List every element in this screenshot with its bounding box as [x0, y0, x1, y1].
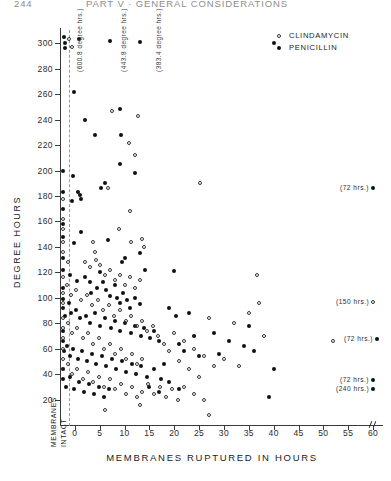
data-point: [207, 413, 211, 417]
data-point: [115, 296, 119, 300]
data-point: [128, 275, 132, 279]
y-tick: [55, 171, 60, 172]
y-tick: [55, 94, 60, 95]
data-point: [118, 301, 122, 305]
data-point: [118, 329, 122, 333]
filled-circle-icon: [371, 387, 375, 391]
open-circle-icon: [371, 300, 375, 304]
data-point: [104, 288, 108, 292]
data-point: [108, 342, 112, 346]
data-point: [103, 181, 107, 185]
data-point: [86, 370, 90, 374]
data-point: [182, 349, 186, 353]
data-point: [172, 331, 176, 335]
data-point: [124, 319, 128, 323]
data-point: [138, 251, 142, 255]
data-point: [156, 334, 160, 338]
data-point: [197, 375, 201, 379]
data-point: [237, 364, 241, 368]
data-point: [124, 357, 128, 361]
data-point: [61, 250, 65, 254]
data-point: [128, 209, 132, 213]
y-tick-label: 240: [22, 115, 53, 125]
data-point: [108, 294, 112, 298]
data-point: [134, 372, 138, 376]
data-point: [129, 331, 133, 335]
data-point: [130, 352, 134, 356]
data-point: [138, 302, 142, 306]
degree-hours-callout: (383.4 degree hrs.): [155, 8, 162, 72]
data-point: [182, 339, 186, 343]
data-point: [192, 347, 196, 351]
data-point: [158, 385, 162, 389]
x-tick-label: 15: [137, 428, 161, 438]
data-point: [69, 293, 73, 297]
data-point: [61, 268, 65, 272]
data-point: [187, 367, 191, 371]
filled-circle-icon: [375, 337, 379, 341]
data-point: [164, 395, 168, 399]
data-point: [74, 288, 78, 292]
filled-circle-icon: [371, 378, 375, 382]
data-point: [227, 339, 231, 343]
legend-label: CLINDAMYCIN: [289, 31, 349, 40]
data-point: [247, 311, 251, 315]
data-point: [102, 385, 106, 389]
data-point: [100, 354, 104, 358]
data-point: [93, 250, 97, 254]
y-tick-label-text: 300: [27, 38, 53, 48]
y-tick-label: 40: [22, 369, 53, 379]
filled-circle-icon: [371, 186, 375, 190]
data-point: [108, 268, 112, 272]
data-point: [113, 352, 117, 356]
data-point: [102, 395, 106, 399]
data-point: [103, 408, 107, 412]
off-scale-callout-label: (72 hrs.): [344, 335, 373, 342]
data-point: [152, 367, 156, 371]
off-scale-callout: (72 hrs.): [340, 184, 375, 191]
data-point: [72, 90, 76, 94]
data-point: [98, 263, 102, 267]
data-point: [262, 334, 266, 338]
data-point: [212, 364, 216, 368]
data-point: [118, 273, 122, 277]
data-point: [85, 359, 89, 363]
data-point: [145, 329, 149, 333]
data-point: [110, 357, 114, 361]
data-point: [101, 280, 105, 284]
data-point: [120, 359, 124, 363]
data-point: [61, 306, 65, 310]
data-point: [113, 387, 117, 391]
data-point: [71, 174, 75, 178]
data-point: [157, 390, 161, 394]
data-point: [133, 153, 137, 157]
data-point: [62, 35, 66, 39]
data-point: [217, 352, 221, 356]
data-point: [118, 107, 122, 111]
data-point: [96, 298, 100, 302]
data-point: [61, 190, 65, 194]
data-point: [222, 357, 226, 361]
data-point: [138, 40, 142, 44]
y-tick-label-text: 260: [27, 89, 53, 99]
x-tick-label: 20: [162, 428, 186, 438]
y-tick-label-text: 120: [27, 267, 53, 277]
data-point: [140, 237, 144, 241]
y-tick-label: 280: [22, 64, 53, 74]
x-tick-label: 40: [262, 428, 286, 438]
data-point: [97, 375, 101, 379]
data-point: [207, 316, 211, 320]
data-point: [133, 296, 137, 300]
y-tick: [55, 145, 60, 146]
data-point: [113, 283, 117, 287]
y-tick-label-text: 60: [27, 344, 53, 354]
data-point: [70, 45, 74, 49]
y-tick: [55, 221, 60, 222]
data-point: [129, 240, 133, 244]
y-tick-label: 260: [22, 89, 53, 99]
data-point: [202, 398, 206, 402]
y-tick-label: 60: [22, 344, 53, 354]
data-point: [112, 314, 116, 318]
off-scale-callout-label: (150 hrs.): [336, 298, 369, 305]
data-point: [106, 186, 110, 190]
